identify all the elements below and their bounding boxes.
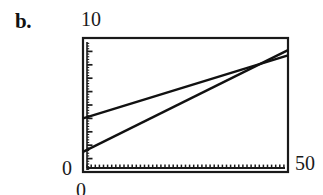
plot-frame [83, 38, 288, 172]
figure-panel: b. 10 0 50 0 [0, 0, 323, 195]
plot-area [0, 0, 323, 195]
series-lower-line [83, 50, 288, 152]
